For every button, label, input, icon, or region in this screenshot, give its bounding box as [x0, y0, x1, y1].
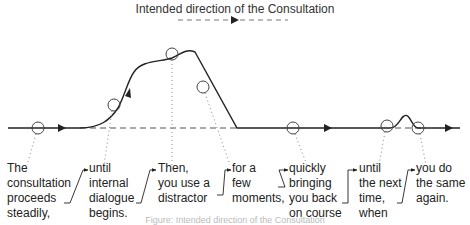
label-distractor: Then, you use a distractor — [158, 161, 210, 206]
direction-legend-arrow — [178, 16, 288, 24]
label-internal-dialogue: until internal dialogue begins. — [89, 161, 134, 221]
label-back-on-course: quickly bringing you back on course — [289, 161, 342, 221]
figure-caption: Figure: Intended direction of the Consul… — [0, 215, 470, 225]
actual-path — [8, 51, 460, 128]
leader-lines — [27, 60, 426, 165]
checkpoint-circles — [32, 48, 424, 134]
label-same-again: you do the same again. — [416, 161, 465, 206]
label-few-moments: for a few moments, — [232, 161, 285, 206]
label-steady: The consultation proceeds steadily, — [7, 161, 71, 221]
label-next-time: until the next time, when — [359, 161, 402, 221]
